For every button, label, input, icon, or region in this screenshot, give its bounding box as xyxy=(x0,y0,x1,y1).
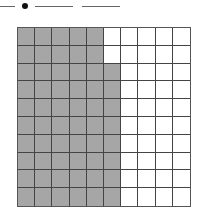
grid-cell xyxy=(121,81,138,99)
grid-cell xyxy=(156,188,173,206)
grid-cell-shaded xyxy=(70,170,87,188)
grid-cell-shaded xyxy=(70,135,87,153)
answer-blank-hundredths xyxy=(82,6,120,7)
grid-cell xyxy=(121,99,138,117)
grid-cell-shaded xyxy=(104,170,121,188)
grid-cell xyxy=(173,64,190,82)
grid-cell xyxy=(156,64,173,82)
grid-cell-shaded xyxy=(35,81,52,99)
grid-cell xyxy=(156,81,173,99)
grid-cell-shaded xyxy=(70,188,87,206)
grid-cell xyxy=(156,99,173,117)
grid-cell xyxy=(138,188,155,206)
grid-cell-shaded xyxy=(70,99,87,117)
grid-cell-shaded xyxy=(87,99,104,117)
grid-cell xyxy=(156,117,173,135)
grid-cell xyxy=(173,99,190,117)
grid-cell-shaded xyxy=(52,170,69,188)
grid-cell xyxy=(138,64,155,82)
grid-cell xyxy=(138,135,155,153)
grid-cell xyxy=(173,28,190,46)
grid-cell-shaded xyxy=(52,81,69,99)
grid-cell-shaded xyxy=(18,135,35,153)
grid-cell xyxy=(138,46,155,64)
grid-cell-shaded xyxy=(18,99,35,117)
grid-cell-shaded xyxy=(104,117,121,135)
grid-cell xyxy=(138,81,155,99)
grid-cell xyxy=(138,99,155,117)
grid-cell-shaded xyxy=(70,28,87,46)
grid-cell xyxy=(156,170,173,188)
grid-cell-shaded xyxy=(70,117,87,135)
grid-cell xyxy=(173,81,190,99)
grid-cell-shaded xyxy=(18,117,35,135)
decimal-point xyxy=(22,3,28,9)
grid-cell-shaded xyxy=(52,64,69,82)
grid-cell xyxy=(138,170,155,188)
grid-cell-shaded xyxy=(70,64,87,82)
grid-cell xyxy=(173,170,190,188)
hundred-grid xyxy=(17,27,191,207)
grid-cell-shaded xyxy=(52,117,69,135)
grid-cell-shaded xyxy=(35,117,52,135)
grid-cell xyxy=(173,188,190,206)
grid-cell-shaded xyxy=(35,153,52,171)
grid-cell xyxy=(156,153,173,171)
grid-cell-shaded xyxy=(35,46,52,64)
grid-cell-shaded xyxy=(104,188,121,206)
answer-blank-tenths xyxy=(35,6,73,7)
grid-cell-shaded xyxy=(87,81,104,99)
answer-blank-ones xyxy=(0,6,15,7)
grid-cell-shaded xyxy=(104,135,121,153)
grid-cell-shaded xyxy=(18,81,35,99)
grid-cell xyxy=(121,153,138,171)
grid-cell xyxy=(121,28,138,46)
grid-cell-shaded xyxy=(104,99,121,117)
grid-cell xyxy=(138,153,155,171)
grid-cell-shaded xyxy=(52,28,69,46)
grid-cell xyxy=(121,135,138,153)
grid-cell xyxy=(121,46,138,64)
grid-cell-shaded xyxy=(70,46,87,64)
grid-cell-shaded xyxy=(70,81,87,99)
grid-cell-shaded xyxy=(52,46,69,64)
grid-cell-shaded xyxy=(35,28,52,46)
grid-cell-shaded xyxy=(18,188,35,206)
grid-cell-shaded xyxy=(87,117,104,135)
grid-cell xyxy=(173,153,190,171)
grid-cell-shaded xyxy=(104,153,121,171)
grid-cell-shaded xyxy=(52,188,69,206)
grid-cell xyxy=(121,170,138,188)
grid-cell xyxy=(156,46,173,64)
grid-cell-shaded xyxy=(104,81,121,99)
grid-cell-shaded xyxy=(18,28,35,46)
grid-cell-shaded xyxy=(87,46,104,64)
grid-cell xyxy=(121,64,138,82)
grid-cell-shaded xyxy=(35,99,52,117)
grid-cell-shaded xyxy=(18,153,35,171)
grid-cell-shaded xyxy=(104,64,121,82)
grid-cell-shaded xyxy=(87,64,104,82)
grid-cell-shaded xyxy=(18,170,35,188)
grid-cell-shaded xyxy=(18,64,35,82)
grid-cell xyxy=(138,28,155,46)
grid-cell-shaded xyxy=(18,46,35,64)
grid-cell xyxy=(121,117,138,135)
grid-cell-shaded xyxy=(87,188,104,206)
grid-cell xyxy=(156,135,173,153)
grid-cell-shaded xyxy=(87,135,104,153)
grid-cell-shaded xyxy=(35,64,52,82)
grid-cell xyxy=(104,46,121,64)
grid-cell-shaded xyxy=(35,135,52,153)
grid-cell-shaded xyxy=(52,135,69,153)
grid-cell-shaded xyxy=(35,170,52,188)
grid-cell-shaded xyxy=(35,188,52,206)
grid-cell xyxy=(156,28,173,46)
grid-cell-shaded xyxy=(87,170,104,188)
grid-cell-shaded xyxy=(70,153,87,171)
grid-cell-shaded xyxy=(87,28,104,46)
grid-cell xyxy=(121,188,138,206)
grid-cell-shaded xyxy=(52,153,69,171)
grid-cell xyxy=(104,28,121,46)
grid-cell xyxy=(138,117,155,135)
